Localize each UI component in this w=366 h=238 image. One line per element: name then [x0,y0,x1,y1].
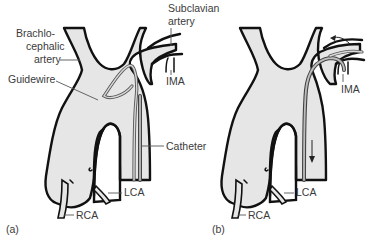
label-rca-b: RCA [248,209,270,221]
label-lca-b: LCA [296,186,316,198]
label-brachiocephalic-1: Brachlo- [16,27,56,39]
label-brachiocephalic-2: cephalic [26,40,65,52]
panel-label-b: (b) [212,223,225,235]
label-catheter: Catheter [166,140,207,152]
panel-label-a: (a) [6,223,19,235]
panel-a: Brachlo- cephalic artery Subclavian arte… [6,2,220,235]
aortic-catheterization-figure: Brachlo- cephalic artery Subclavian arte… [0,0,366,238]
label-lca-a: LCA [124,186,144,198]
label-rca-a: RCA [76,209,98,221]
panel-b: IMA LCA RCA (b) [212,28,364,235]
label-brachiocephalic-3: artery [34,53,62,65]
ima-vessel-a [166,58,168,72]
label-ima-b: IMA [341,83,360,95]
label-guidewire: Guidewire [8,73,55,85]
label-subclavian-1: Subclavian [168,2,220,14]
label-subclavian-2: artery [168,15,196,27]
label-ima-a: IMA [166,75,185,87]
